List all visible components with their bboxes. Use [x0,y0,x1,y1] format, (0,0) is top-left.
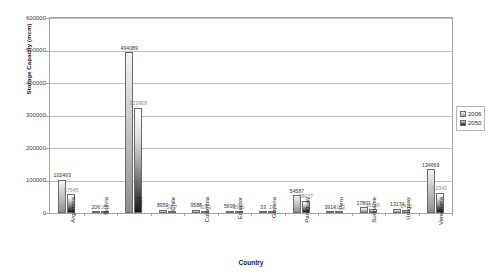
legend-item-2050[interactable]: 2050 [460,118,481,127]
x-label-peru: Peru [338,197,344,257]
bar-group: 1780111148 [352,18,386,213]
bar-uruguay-2006[interactable] [393,209,401,213]
x-label-suriname: Suriname [371,197,377,257]
bar-brazil-2006[interactable] [125,52,133,213]
y-tick-label: 200000 [2,145,46,151]
x-label-chile: Chile [170,197,176,257]
bar-suriname-2006[interactable] [360,207,368,213]
x-label-venezuela: Venezuela [438,197,444,257]
x-label-guyana: Guyana [271,197,277,257]
bar-value-label: 62343 [429,186,451,191]
bar-value-label: 57645 [60,188,82,193]
x-label-ecuador: Ecuador [237,197,243,257]
bar-guyana-2006[interactable] [259,211,267,213]
bar-group: 95883053 [184,18,218,213]
x-axis-title: Country [49,259,453,266]
bar-chart: Storage Capacity (mcm) 01000002000003000… [0,0,500,275]
chart-legend: 2006 2050 [456,106,485,131]
bar-group: 10249357645 [50,18,84,213]
x-label-paraguay: Paraguay [304,197,310,257]
bar-group: 494089323969 [117,18,151,213]
legend-swatch-2006-icon [460,111,466,117]
y-tick-label: 300000 [2,112,46,118]
x-label-brazil: Brazil [137,197,143,257]
bar-bolivia-2006[interactable] [92,211,100,213]
bar-group: 206103 [84,18,118,213]
y-tick-label: 500000 [2,47,46,53]
y-tick-label: 100000 [2,177,46,183]
y-tick-label: 0 [2,210,46,216]
x-label-colombia: Colombia [204,197,210,257]
bar-group: 89595397 [151,18,185,213]
bar-chile-2006[interactable] [159,210,167,213]
plot-area: 1024935764520610349408932396989595397958… [50,18,452,213]
legend-item-2006[interactable]: 2006 [460,109,481,118]
bar-group: 56992956 [218,18,252,213]
legend-label-2050: 2050 [468,120,481,126]
x-label-bolivia: Bolivia [103,197,109,257]
bar-value-label: 494089 [118,46,140,51]
y-tick-label: 600000 [2,15,46,21]
bar-argentina-2006[interactable] [58,180,66,213]
bar-peru-2006[interactable] [326,211,334,213]
x-label-uruguay: Uruguay [405,197,411,257]
bar-group: 131748470 [385,18,419,213]
bar-group: 39142153 [318,18,352,213]
y-tick-label: 400000 [2,80,46,86]
legend-swatch-2050-icon [460,120,466,126]
bar-value-label: 323969 [127,101,149,106]
x-tick-mark [452,213,453,216]
legend-label-2006: 2006 [468,111,481,117]
bar-value-label: 102493 [51,173,73,178]
bar-group: 5458738037 [285,18,319,213]
bar-ecuador-2006[interactable] [226,211,234,213]
bar-group: 3320 [251,18,285,213]
x-axis-category-labels: ArgentinaBoliviaBrazilChileColombiaEcuad… [50,215,452,259]
bar-group: 13466962343 [419,18,453,213]
x-label-argentina: Argentina [70,197,76,257]
bar-value-label: 134669 [420,163,442,168]
